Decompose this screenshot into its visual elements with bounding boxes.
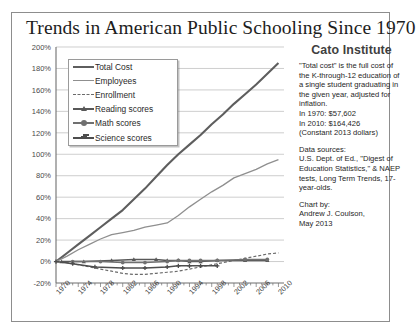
legend-item: Science scores	[69, 130, 177, 144]
chart-by-label: Chart by:	[299, 200, 404, 210]
chart-date: May 2013	[299, 219, 404, 229]
data-point-marker	[243, 258, 247, 262]
legend-label: Employees	[94, 76, 136, 86]
legend-item: Math scores	[69, 116, 177, 130]
data-point-marker	[165, 260, 169, 264]
y-tick-label: 160%	[32, 86, 52, 95]
y-tick-label: 100%	[32, 150, 52, 159]
data-point-marker	[165, 265, 169, 269]
data-point-marker	[121, 261, 125, 265]
data-point-marker	[99, 260, 103, 264]
legend-label: Total Cost	[94, 62, 132, 72]
chart-card: Trends in American Public Schooling Sinc…	[11, 12, 390, 322]
legend-swatch-icon	[73, 118, 94, 128]
legend-label: Math scores	[94, 118, 141, 128]
data-point-marker	[199, 259, 203, 263]
y-tick-label: 140%	[32, 107, 52, 116]
definition-text: "Total cost" is the full cost of the K-t…	[299, 61, 404, 109]
legend-swatch-icon	[73, 90, 94, 100]
chart-legend: Total CostEmployeesEnrollmentReading sco…	[68, 59, 178, 146]
data-point-marker	[176, 264, 180, 268]
series-line	[56, 160, 278, 262]
y-tick-label: 120%	[32, 129, 52, 138]
chart-author: Andrew J. Coulson,	[299, 209, 404, 219]
series-line	[56, 253, 278, 274]
legend-swatch-icon	[73, 76, 94, 86]
data-point-marker	[188, 259, 192, 263]
legend-item: Employees	[69, 74, 177, 88]
data-point-marker	[265, 258, 269, 262]
legend-swatch-icon	[73, 133, 94, 143]
org-title: Cato Institute	[299, 43, 404, 57]
sidebar-panel: Cato Institute "Total cost" is the full …	[299, 43, 404, 229]
data-point-marker	[121, 266, 125, 270]
sources-label: Data sources:	[299, 145, 404, 155]
legend-label: Reading scores	[94, 104, 153, 114]
cost-1970: In 1970: $57,602	[299, 109, 404, 119]
legend-marker-icon	[81, 106, 87, 111]
legend-label: Enrollment	[94, 90, 135, 100]
y-tick-label: -20%	[33, 279, 51, 288]
data-point-marker	[143, 261, 147, 265]
y-tick-label: 60%	[36, 193, 51, 202]
page-title: Trends in American Public Schooling Sinc…	[26, 17, 366, 41]
legend-label: Science scores	[94, 133, 152, 143]
legend-marker-icon	[81, 136, 87, 138]
y-tick-label: 0%	[40, 257, 51, 266]
y-tick-label: 80%	[36, 171, 51, 180]
legend-swatch-icon	[73, 62, 94, 72]
legend-swatch-icon	[73, 104, 94, 114]
legend-item: Enrollment	[69, 88, 177, 102]
constant-dollars-note: (Constant 2013 dollars)	[299, 128, 404, 138]
data-point-marker	[143, 266, 147, 270]
data-point-marker	[215, 259, 219, 263]
data-point-marker	[198, 264, 202, 268]
y-tick-label: 40%	[36, 214, 51, 223]
data-point-marker	[176, 259, 180, 263]
legend-item: Reading scores	[69, 102, 177, 116]
sources-text: U.S. Dept. of Ed., "Digest of Education …	[299, 154, 404, 192]
data-point-marker	[187, 264, 191, 268]
y-tick-label: 20%	[36, 236, 51, 245]
cost-2010: In 2010: $164,426	[299, 119, 404, 129]
legend-marker-icon	[81, 120, 87, 126]
legend-item: Total Cost	[69, 60, 177, 74]
